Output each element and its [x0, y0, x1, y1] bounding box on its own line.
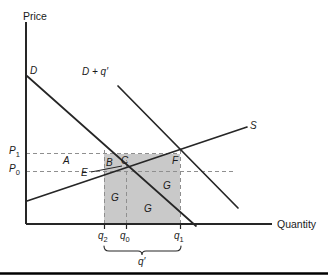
supply-demand-figure: Price Quantity D D + q′ S P1 P0 q2 q0 q1… — [0, 0, 328, 279]
region-label-g-left: G — [111, 193, 119, 203]
quantity-tick-q2: q2 — [98, 231, 108, 244]
shaded-region-trim — [180, 210, 195, 224]
quantity-tick-q0: q0 — [120, 231, 130, 244]
price-tick-p1: P1 — [9, 146, 20, 159]
quantity-tick-q1: q1 — [174, 231, 184, 244]
supply-curve-label: S — [250, 121, 257, 131]
region-label-c: C — [121, 156, 128, 166]
region-label-g-bottom: G — [144, 204, 152, 214]
region-label-b: B — [106, 158, 113, 168]
region-label-f: F — [172, 156, 178, 166]
demand-curve-label: D — [30, 66, 37, 76]
price-tick-p0-sub: 0 — [16, 168, 20, 177]
region-label-e: E — [81, 168, 88, 178]
diagram-canvas — [0, 0, 328, 279]
quantity-tick-q2-sub: 2 — [104, 235, 108, 244]
price-tick-p0-base: P — [9, 163, 16, 174]
x-axis-title: Quantity — [277, 219, 316, 230]
quantity-tick-q0-sub: 0 — [126, 235, 130, 244]
price-tick-p1-base: P — [9, 145, 16, 156]
region-label-g-right: G — [163, 181, 171, 191]
region-label-a: A — [63, 156, 70, 166]
q-prime-brace — [104, 246, 181, 255]
price-tick-p1-sub: 1 — [16, 150, 20, 159]
price-tick-p0: P0 — [9, 164, 20, 177]
y-axis-title: Price — [23, 11, 47, 22]
q-prime-brace-label: q′ — [138, 257, 145, 267]
quantity-tick-q1-sub: 1 — [180, 235, 184, 244]
demand-shifted-curve-label: D + q′ — [82, 67, 108, 77]
